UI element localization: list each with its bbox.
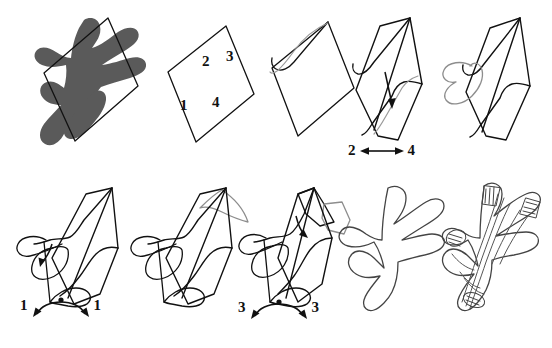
fold-diagonal bbox=[374, 18, 410, 130]
fold-diagonal bbox=[286, 188, 314, 298]
caption-right-3: 3 bbox=[312, 300, 320, 315]
fold-ghost-edge bbox=[270, 23, 328, 73]
panel-blank-parallelogram: 2 3 1 4 bbox=[158, 22, 266, 147]
caption-right-1: 1 bbox=[94, 298, 102, 313]
quadrant-label-4: 4 bbox=[212, 95, 220, 110]
sheet-outline bbox=[466, 18, 530, 140]
panel8-caption: 3 3 bbox=[238, 294, 319, 320]
panel-loop-with-ghost-overlay bbox=[122, 182, 248, 314]
sheet-outline bbox=[52, 188, 118, 304]
double-arrow-icon bbox=[358, 144, 406, 158]
loop-outgrowth-lower bbox=[146, 247, 183, 280]
inner-lobe-detail bbox=[452, 254, 484, 294]
quadrant-label-2: 2 bbox=[202, 54, 210, 69]
quadrant-label-1: 1 bbox=[180, 98, 188, 113]
panel6-caption: 1 1 bbox=[20, 292, 101, 318]
somite-hatching-left-icon bbox=[444, 227, 468, 249]
fold-edge-lower bbox=[470, 83, 530, 137]
internal-striation-group bbox=[462, 194, 528, 308]
caption-right-4: 4 bbox=[408, 143, 416, 158]
panel-filled-silhouette-with-parallelogram bbox=[14, 8, 154, 163]
fold-edge-upper bbox=[463, 18, 520, 75]
curved-double-arrow-icon bbox=[30, 292, 92, 318]
loop-outgrowth-lower bbox=[252, 245, 289, 278]
quadrant-label-3: 3 bbox=[226, 49, 234, 64]
panel-outline-only-embryo bbox=[336, 180, 454, 320]
embryo-outline bbox=[339, 186, 444, 310]
panel-final-embryo-detail bbox=[440, 176, 552, 326]
panel4-caption: 2 4 bbox=[348, 143, 415, 158]
caption-left-3: 3 bbox=[238, 300, 246, 315]
caption-left-2: 2 bbox=[348, 143, 356, 158]
sheet-outline bbox=[166, 188, 232, 304]
panel-loop-extended-rotation: 1 1 bbox=[8, 182, 134, 314]
panel-fold-with-down-arrow: 2 4 bbox=[334, 12, 446, 157]
filled-embryo-shape bbox=[35, 18, 147, 145]
panel-parallelogram-with-loop bbox=[432, 12, 552, 157]
curved-double-arrow-icon bbox=[248, 294, 310, 320]
caption-left-1: 1 bbox=[20, 298, 28, 313]
fold-ghost bbox=[374, 76, 418, 134]
figure-root: 2 3 1 4 2 bbox=[0, 0, 552, 348]
parallelogram-outline bbox=[168, 26, 254, 142]
